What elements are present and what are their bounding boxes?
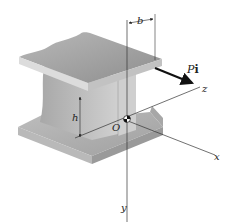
label-y-axis: y	[120, 202, 127, 213]
label-x-axis: x	[214, 151, 220, 162]
label-i: i	[194, 63, 198, 76]
label-b: b	[137, 15, 143, 26]
label-load: Pi	[186, 63, 199, 76]
top-flange	[19, 32, 162, 91]
diagram-canvas: b h O Pi z x y	[0, 0, 233, 223]
label-z-axis: z	[201, 83, 208, 94]
label-origin: O	[112, 122, 120, 133]
beam-diagram: b h O Pi z x y	[0, 0, 233, 223]
label-h: h	[72, 112, 78, 123]
